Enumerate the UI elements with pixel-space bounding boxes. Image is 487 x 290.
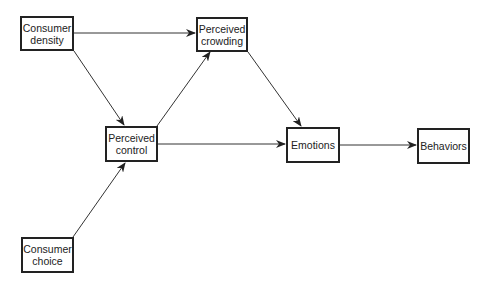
node-behaviors: Behaviors [417, 128, 470, 164]
node-perceived-control: Perceived control [105, 126, 158, 162]
node-consumer-choice: Consumer choice [21, 237, 74, 273]
edge-control-crowding [157, 52, 210, 126]
edge-choice-control [73, 163, 125, 237]
node-emotions: Emotions [286, 127, 340, 163]
node-consumer-density: Consumer density [20, 16, 74, 51]
edge-crowding-emotions [248, 52, 301, 126]
edge-density-control [74, 51, 124, 125]
node-perceived-crowding: Perceived crowding [196, 17, 248, 52]
